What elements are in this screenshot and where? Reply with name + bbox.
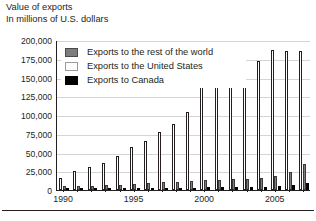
- bar-ca: [151, 188, 154, 190]
- bar-ca: [80, 188, 83, 190]
- legend-swatch-united_states: [65, 62, 78, 71]
- bar-ca: [264, 187, 267, 190]
- chart-legend: Exports to the rest of the worldExports …: [61, 44, 246, 88]
- x-axis-tick-label: 2005: [265, 194, 285, 204]
- bar-us: [215, 81, 218, 191]
- bar-ca: [235, 187, 238, 190]
- x-axis-tick: [105, 189, 106, 192]
- bar-group: [283, 41, 297, 190]
- legend-item-united_states[interactable]: Exports to the United States: [61, 59, 246, 73]
- bar-ca: [94, 188, 97, 190]
- chart-heading: Value of exports In millions of U.S. dol…: [6, 2, 306, 25]
- y-axis-tick-label: 75,000: [26, 130, 52, 139]
- legend-item-canada[interactable]: Exports to Canada: [61, 73, 246, 87]
- y-axis-labels: 200,000175,000150,000125,000100,00075,00…: [0, 41, 53, 191]
- bar-group: [255, 41, 269, 190]
- y-axis-tick-label: 25,000: [26, 168, 52, 177]
- x-axis-tick-label: 1995: [124, 194, 144, 204]
- bar-ca: [179, 188, 182, 190]
- x-axis-tick: [120, 189, 121, 192]
- bar-ca: [306, 183, 309, 190]
- x-axis-tick: [190, 189, 191, 192]
- bar-us: [186, 112, 189, 190]
- bar-ca: [137, 188, 140, 190]
- bar-group: [297, 41, 311, 190]
- bar-ca: [250, 187, 253, 190]
- bar-ca: [123, 188, 126, 190]
- x-axis-tick: [232, 189, 233, 192]
- x-axis-tick: [162, 189, 163, 192]
- y-axis-tick-label: 200,000: [21, 37, 52, 46]
- bar-ca: [165, 188, 168, 190]
- y-axis-tick-label: 0: [47, 187, 52, 196]
- x-axis-tick: [247, 189, 248, 192]
- legend-label-united_states: Exports to the United States: [87, 61, 203, 71]
- bar-ca: [193, 188, 196, 190]
- x-axis-tick-label: 1990: [53, 194, 73, 204]
- x-axis-tick: [148, 189, 149, 192]
- y-axis-tick-label: 150,000: [21, 74, 52, 83]
- legend-label-rest_of_world: Exports to the rest of the world: [87, 47, 213, 57]
- bar-us: [257, 61, 260, 190]
- bar-ca: [292, 185, 295, 190]
- bar-ca: [207, 187, 210, 190]
- x-axis-tick: [275, 189, 276, 192]
- bar-ca: [278, 186, 281, 190]
- x-axis-tick: [261, 189, 262, 192]
- y-axis-tick-label: 125,000: [21, 93, 52, 102]
- bar-us: [243, 78, 246, 191]
- bar-us: [172, 124, 175, 190]
- bar-ca: [108, 188, 111, 190]
- x-axis-tick: [63, 189, 64, 192]
- y-axis-tick-label: 50,000: [26, 149, 52, 158]
- bar-us: [285, 51, 288, 190]
- bar-us: [271, 50, 274, 190]
- chart-title: Value of exports: [6, 2, 306, 14]
- x-axis-tick: [204, 189, 205, 192]
- chart-page: Value of exports In millions of U.S. dol…: [0, 0, 316, 221]
- x-axis-tick: [77, 189, 78, 192]
- legend-swatch-canada: [65, 76, 78, 85]
- x-axis-tick: [303, 189, 304, 192]
- bar-us: [200, 78, 203, 191]
- x-axis-tick: [91, 189, 92, 192]
- legend-swatch-rest_of_world: [65, 48, 78, 57]
- bar-ca: [221, 187, 224, 190]
- x-axis-tick: [218, 189, 219, 192]
- legend-label-canada: Exports to Canada: [87, 75, 164, 85]
- x-axis-tick-label: 2000: [194, 194, 214, 204]
- bottom-divider: [2, 210, 314, 211]
- y-axis-tick-label: 175,000: [21, 55, 52, 64]
- y-axis-tick-label: 100,000: [21, 112, 52, 121]
- x-axis-tick: [176, 189, 177, 192]
- bar-group: [269, 41, 283, 190]
- legend-item-rest_of_world[interactable]: Exports to the rest of the world: [61, 45, 246, 59]
- bar-ca: [66, 188, 69, 190]
- x-axis-tick: [289, 189, 290, 192]
- chart-subtitle: In millions of U.S. dollars: [6, 14, 306, 26]
- x-axis-tick: [134, 189, 135, 192]
- bar-us: [229, 78, 232, 190]
- x-axis-labels: 1990199520002005: [56, 192, 310, 206]
